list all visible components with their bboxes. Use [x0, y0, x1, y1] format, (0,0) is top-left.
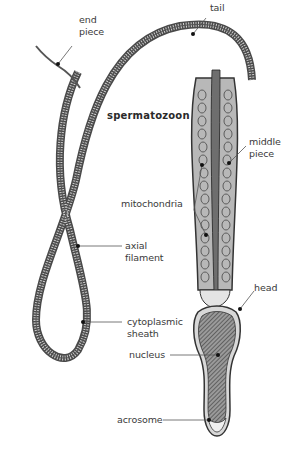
label-acrosome: acrosome [117, 414, 163, 426]
label-head: head [254, 282, 277, 294]
dot-tail [191, 32, 195, 36]
label-tail: tail [210, 2, 224, 14]
label-end-piece: end piece [79, 14, 104, 38]
dot-head [238, 307, 242, 311]
dot-mitochondria-2 [204, 233, 208, 237]
dot-acrosome [207, 418, 211, 422]
dot-nucleus [216, 353, 220, 357]
label-axial-filament: axial filament [125, 240, 164, 264]
dot-axial-filament [76, 244, 80, 248]
label-middle-piece: middle piece [249, 136, 281, 160]
leader-end-piece [58, 46, 72, 64]
diagram-title: spermatozoon [107, 110, 190, 121]
dot-end-piece [56, 62, 60, 66]
leader-head [240, 291, 254, 309]
dot-cytoplasmic-sheath [81, 320, 85, 324]
diagram-drawing [0, 0, 293, 449]
spermatozoon-diagram: end piece tail spermatozoon middle piece… [0, 0, 293, 449]
label-mitochondria: mitochondria [121, 198, 183, 210]
dot-mitochondria-1 [200, 163, 204, 167]
label-cytoplasmic-sheath: cytoplasmic sheath [127, 316, 183, 340]
label-nucleus: nucleus [129, 349, 165, 361]
dot-middle-piece [227, 161, 231, 165]
